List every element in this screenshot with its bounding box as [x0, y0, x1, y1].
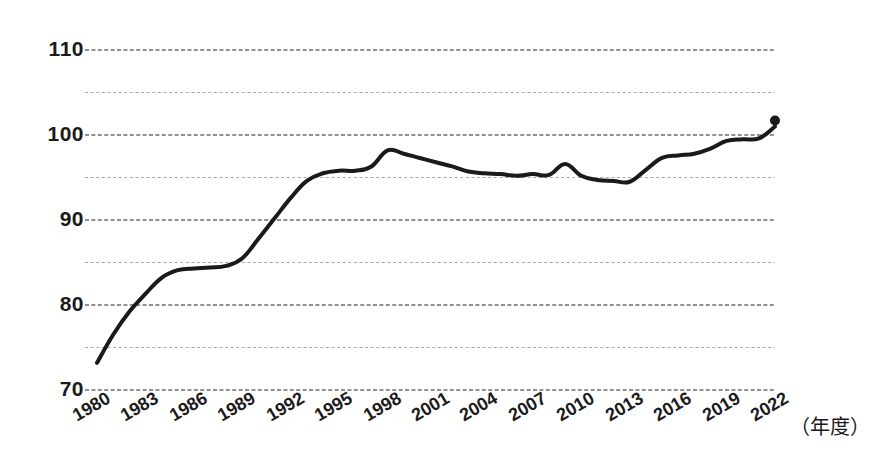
- y-axis-tick-label: 90: [22, 207, 84, 231]
- x-axis-unit-label: （年度）: [790, 411, 870, 440]
- y-axis-tick-label: 100: [22, 122, 84, 146]
- y-axis-tick-label: 110: [22, 37, 84, 61]
- y-axis-tick-label: 80: [22, 292, 84, 316]
- data-series-line: [97, 127, 775, 363]
- gridlines: [85, 50, 775, 390]
- series-end-marker: [770, 116, 780, 126]
- line-chart: 110100908070 198019831986198919921995199…: [0, 0, 882, 474]
- y-axis-tick-label: 70: [22, 377, 84, 401]
